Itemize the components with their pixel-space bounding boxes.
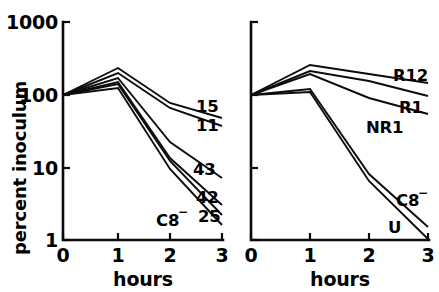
left-xtick-label-0: 0	[56, 244, 69, 266]
left-curve-label-25: 25	[198, 207, 221, 226]
left-xtick-label-3: 3	[215, 244, 228, 266]
left-xtick-label-1: 1	[111, 244, 124, 266]
right-curve-label-u: U	[388, 218, 401, 237]
left-xtick-label-2: 2	[163, 244, 176, 266]
left-curve-label-43: 43	[193, 160, 216, 179]
left-ytick-label-1000: 1000	[6, 11, 58, 33]
yaxis-title-percent-inoculum: percent inoculum	[9, 81, 30, 255]
right-xtick-label-2: 2	[362, 244, 375, 266]
left-panel: 1000 100 10 1 0 1 2 3 hours percent inoc…	[6, 11, 229, 290]
left-xaxis-title: hours	[113, 268, 173, 290]
left-curve-label-11: 11	[196, 116, 219, 135]
right-curve-label-nr1: NR1	[366, 118, 403, 137]
right-curve-label-r12: R12	[393, 66, 428, 85]
right-xaxis-title: hours	[310, 268, 370, 290]
left-curve-label-c8: C8 −	[156, 205, 188, 230]
right-xtick-label-1: 1	[303, 244, 316, 266]
right-xtick-label-0: 0	[244, 244, 257, 266]
right-panel: 0 1 2 3 hours R12 R1 NR1 C8 − U	[244, 22, 434, 290]
left-curve-label-42: 42	[196, 188, 219, 207]
right-xtick-label-3: 3	[421, 244, 434, 266]
figure-container: 1000 100 10 1 0 1 2 3 hours percent inoc…	[0, 0, 439, 292]
left-curve-label-c8-base: C8	[156, 211, 179, 230]
left-curve-label-c8-superscript: −	[178, 205, 188, 219]
right-curve-label-c8: C8 −	[396, 186, 428, 210]
right-curve-label-c8-base: C8	[396, 191, 419, 210]
two-panel-growth-curve-figure: 1000 100 10 1 0 1 2 3 hours percent inoc…	[0, 0, 439, 292]
left-curve-label-15: 15	[196, 97, 219, 116]
right-curve-label-c8-superscript: −	[418, 186, 428, 200]
left-ytick-label-10: 10	[32, 157, 58, 179]
right-curve-label-r1: R1	[399, 98, 423, 117]
